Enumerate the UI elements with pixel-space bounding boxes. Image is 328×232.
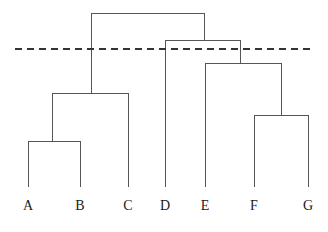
leaf-label-a: A (23, 198, 34, 213)
leaf-label-d: D (160, 198, 170, 213)
leaf-label-c: C (123, 198, 132, 213)
dendrogram-figure: ABCDEFG (0, 0, 328, 232)
leaf-label-group: ABCDEFG (23, 198, 313, 213)
leaf-label-g: G (303, 198, 313, 213)
merge-link-group (29, 14, 309, 142)
dendrogram-canvas: ABCDEFG (0, 0, 328, 232)
leaf-label-f: F (250, 198, 258, 213)
leaf-label-b: B (75, 198, 84, 213)
leaf-stem-group (29, 13, 309, 187)
leaf-label-e: E (201, 198, 210, 213)
